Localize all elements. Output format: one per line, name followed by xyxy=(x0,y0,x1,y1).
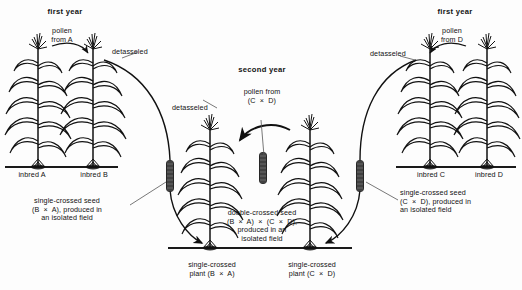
arc-right-lower xyxy=(326,190,360,243)
pollen-arrow-right xyxy=(430,43,466,53)
plant-inbred-a xyxy=(5,33,71,170)
label-single-crossed-plant-ba: single-crossed plant (B × A) xyxy=(188,261,236,278)
arc-left-upper xyxy=(104,60,170,160)
ear-single-crossed-cd xyxy=(356,160,364,192)
center-seed-caption: double-crossed seed (B × A) × (C × D), p… xyxy=(227,209,297,243)
label-inbred-a: inbred A xyxy=(18,171,45,180)
center-detasseled-label: detasseled xyxy=(172,104,208,113)
label-inbred-b: inbred B xyxy=(80,171,108,180)
arc-left-lower xyxy=(170,190,202,243)
center-year-label: second year xyxy=(238,66,286,75)
leader-line-right xyxy=(366,182,398,200)
left-seed-caption: single-crossed seed (B × A), produced in… xyxy=(32,197,102,223)
right-seed-caption: single-crossed seed (C × D), produced in… xyxy=(400,189,471,215)
right-year-label: first year xyxy=(437,8,472,17)
pollen-arrow-center xyxy=(240,125,290,140)
corn-breeding-diagram: first year pollen from A detasseled inbr… xyxy=(0,0,522,290)
ear-double-crossed xyxy=(259,152,267,184)
left-detasseled-label: detasseled xyxy=(112,48,148,57)
ear-single-crossed-ba xyxy=(166,160,174,192)
label-single-crossed-plant-cd: single-crossed plant (C × D) xyxy=(288,261,336,278)
right-pollen-label: pollen from D xyxy=(441,27,463,44)
right-detasseled-label: detasseled xyxy=(370,50,406,59)
label-inbred-d: inbred D xyxy=(475,171,503,180)
left-year-label: first year xyxy=(47,8,82,17)
center-pollen-label: pollen from (C × D) xyxy=(244,88,281,105)
plant-inbred-d xyxy=(454,33,520,170)
pollen-arrow-left xyxy=(52,43,88,53)
leader-line-left xyxy=(130,182,166,205)
label-inbred-c: inbred C xyxy=(417,171,445,180)
left-pollen-label: pollen from A xyxy=(51,27,72,44)
plant-inbred-c xyxy=(397,33,463,170)
